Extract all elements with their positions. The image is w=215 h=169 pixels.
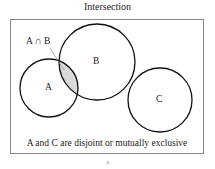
intersection-label: A ∩ B [26, 36, 50, 46]
diagram-caption: A and C are disjoint or mutually exclusi… [10, 138, 204, 148]
set-a-label: A [45, 82, 52, 92]
footer-mark: a [0, 159, 215, 165]
set-c-label: C [156, 94, 162, 104]
set-b-label: B [93, 56, 99, 66]
